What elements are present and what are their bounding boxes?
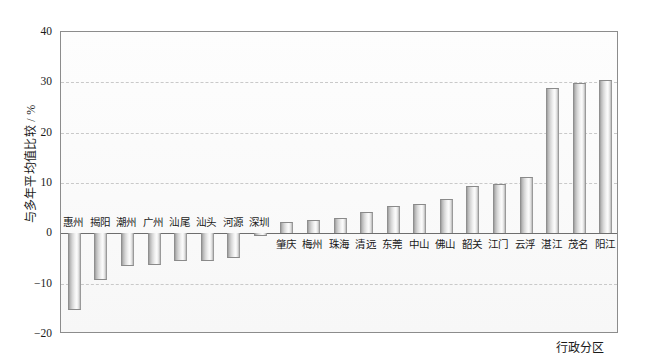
category-label-肇庆: 肇庆 — [276, 236, 296, 251]
category-label-江门: 江门 — [488, 236, 508, 251]
bar — [334, 218, 347, 233]
category-label-汕头: 汕头 — [196, 214, 216, 229]
category-label-韶关: 韶关 — [462, 236, 482, 251]
category-label-广州: 广州 — [143, 214, 163, 229]
y-tick-label-30: 30 — [12, 75, 52, 87]
category-label-深圳: 深圳 — [249, 214, 269, 229]
bar — [94, 233, 107, 279]
category-label-揭阳: 揭阳 — [90, 214, 110, 229]
category-label-云浮: 云浮 — [515, 236, 535, 251]
category-label-中山: 中山 — [409, 236, 429, 251]
y-tick-label--20: −20 — [12, 327, 52, 339]
bar — [387, 206, 400, 234]
category-label-茂名: 茂名 — [568, 236, 588, 251]
plot-area — [60, 31, 618, 333]
bar — [440, 199, 453, 233]
bar — [360, 212, 373, 233]
y-tick-label-10: 10 — [12, 176, 52, 188]
category-label-湛江: 湛江 — [541, 236, 561, 251]
bar — [573, 83, 586, 233]
category-label-佛山: 佛山 — [435, 236, 455, 251]
category-label-河源: 河源 — [223, 214, 243, 229]
category-label-潮州: 潮州 — [116, 214, 136, 229]
bar — [520, 177, 533, 233]
y-tick-label--10: −10 — [12, 277, 52, 289]
bar — [68, 233, 81, 310]
bar — [307, 220, 320, 234]
gridline-10 — [61, 183, 617, 184]
category-label-珠海: 珠海 — [329, 236, 349, 251]
category-label-惠州: 惠州 — [63, 214, 83, 229]
zero-axis-line — [61, 233, 617, 234]
bar — [599, 80, 612, 233]
category-label-梅州: 梅州 — [302, 236, 322, 251]
bar — [174, 233, 187, 261]
y-tick-label-40: 40 — [12, 25, 52, 37]
bar — [148, 233, 161, 264]
bar — [280, 222, 293, 233]
gridline-30 — [61, 82, 617, 83]
x-axis-title: 行政分区 — [556, 338, 604, 356]
bar — [254, 233, 267, 236]
gridline--10 — [61, 284, 617, 285]
y-tick-label-20: 20 — [12, 126, 52, 138]
bar — [201, 233, 214, 261]
category-label-东莞: 东莞 — [382, 236, 402, 251]
bar-chart-figure: 与多年平均值比较 / % 403020100−10−20 惠州揭阳潮州广州汕尾汕… — [0, 0, 653, 359]
bar — [413, 204, 426, 233]
category-label-清远: 清远 — [355, 236, 375, 251]
category-label-汕尾: 汕尾 — [169, 214, 189, 229]
bar — [466, 186, 479, 234]
bar — [493, 184, 506, 234]
bar — [227, 233, 240, 258]
bar — [121, 233, 134, 266]
category-label-阳江: 阳江 — [595, 236, 615, 251]
y-tick-label-0: 0 — [12, 226, 52, 238]
gridline-20 — [61, 133, 617, 134]
bar — [546, 88, 559, 233]
